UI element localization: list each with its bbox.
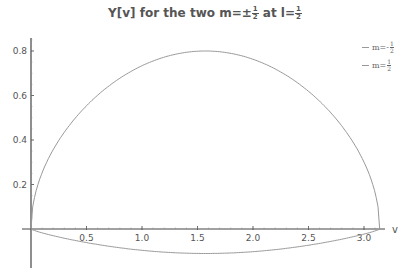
legend: m=- 12 m= 12 — [362, 38, 394, 74]
legend-item-m-minus-half: m=- 12 — [362, 38, 394, 56]
legend-swatch — [362, 47, 369, 48]
x-tick-label: 1.0 — [135, 233, 150, 243]
y-tick-label: 0.6 — [13, 91, 28, 101]
legend-swatch — [362, 65, 369, 66]
legend-fraction: 12 — [390, 41, 394, 54]
x-axis-label: v — [392, 224, 398, 235]
plot-area: 0.51.01.52.02.53.00.20.40.60.8v — [0, 0, 410, 280]
legend-label: m=- — [372, 43, 389, 52]
legend-item-m-half: m= 12 — [362, 56, 394, 74]
x-tick-label: 2.0 — [246, 233, 261, 243]
legend-den: 2 — [390, 48, 394, 54]
legend-den: 2 — [387, 66, 391, 72]
x-tick-label: 2.5 — [301, 233, 315, 243]
y-tick-label: 0.4 — [13, 135, 28, 145]
y-tick-label: 0.2 — [13, 180, 27, 190]
x-tick-label: 1.5 — [190, 233, 204, 243]
legend-fraction: 12 — [387, 59, 391, 72]
series-m-minus-half-curve — [31, 51, 380, 229]
y-tick-label: 0.8 — [13, 46, 28, 56]
legend-label: m= — [372, 61, 386, 70]
